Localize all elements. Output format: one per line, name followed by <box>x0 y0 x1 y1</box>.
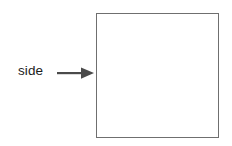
right-arrow-glyph <box>57 66 95 80</box>
right-arrow-icon <box>57 66 95 80</box>
side-label: side <box>18 63 43 79</box>
geometry-figure: side <box>0 0 232 146</box>
square-shape <box>96 13 219 138</box>
